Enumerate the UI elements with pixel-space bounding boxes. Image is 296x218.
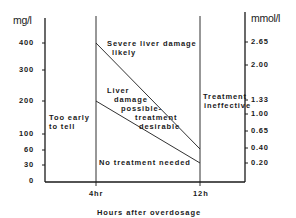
left-tick-label: 300 [4, 66, 34, 74]
region-label-line: likely [107, 48, 197, 57]
x-tick-label-12h: 12h [193, 189, 209, 198]
region-label-line: to tell [49, 122, 90, 131]
right-tick-label: 0.65 [251, 127, 269, 135]
region-label-line: ineffective [203, 101, 251, 110]
region-label-line: treatment [107, 113, 180, 122]
left-tick-label: 100 [4, 130, 34, 138]
right-tick-label: 1.33 [251, 96, 269, 104]
region-label-line: Liver [107, 86, 180, 95]
right-tick-label: 1.00 [251, 110, 269, 118]
region-label-line: possible- [107, 104, 180, 113]
region-label-line: damage [107, 95, 180, 104]
left-tick-label: 60 [4, 146, 34, 154]
right-tick-label: 2.65 [251, 38, 269, 46]
right-unit-label: mmol/l [251, 12, 280, 24]
right-tick-label: 0.40 [251, 144, 269, 152]
region-label-line: Severe liver damage [107, 39, 197, 48]
region-label-liver-damage: Liver damage possible- treatment desirab… [107, 86, 180, 131]
left-tick-label: 0 [4, 177, 34, 185]
x-tick-label-4hr: 4hr [89, 189, 103, 198]
region-label-treatment-ineffective: Treatment ineffective [203, 92, 251, 110]
region-label-no-treatment: No treatment needed [99, 158, 191, 167]
left-tick-label: 30 [4, 161, 34, 169]
right-tick-label: 2.00 [251, 61, 269, 69]
right-tick-label: 0.20 [251, 159, 269, 167]
region-label-line: Treatment [203, 92, 251, 101]
left-tick-label: 200 [4, 97, 34, 105]
region-label-severe: Severe liver damage likely [107, 39, 197, 57]
region-label-line: desirable [107, 122, 180, 131]
region-label-line: Too early [49, 113, 90, 122]
left-tick-label: 400 [4, 39, 34, 47]
left-unit-label: mg/l [13, 14, 32, 26]
region-label-too-early: Too early to tell [49, 113, 90, 131]
x-axis-title: Hours after overdosage [97, 208, 201, 217]
